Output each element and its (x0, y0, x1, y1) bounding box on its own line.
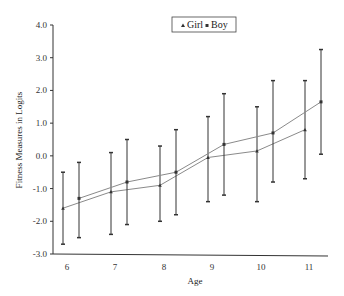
square-marker-icon (126, 181, 129, 184)
y-tick-label: 3.0 (36, 53, 48, 63)
fitness-chart: 4.03.02.01.00.0-1.0-2.0-3.0 67891011 Fit… (0, 0, 344, 296)
y-tick-label: -2.0 (33, 216, 48, 226)
y-axis-title: Fitness Measures in Logits (14, 91, 24, 188)
x-axis-title: Age (188, 276, 203, 286)
square-marker-icon (175, 171, 178, 174)
x-axis-line (53, 254, 328, 256)
legend-boy-label: Boy (211, 19, 228, 30)
y-tick-label: -3.0 (33, 249, 48, 259)
series-line-boy (79, 102, 321, 199)
square-marker-icon (272, 131, 275, 134)
x-axis: 67891011 (53, 254, 328, 272)
legend-boy-square-icon (206, 24, 209, 27)
y-tick-label: -1.0 (33, 184, 48, 194)
triangle-marker-icon (303, 128, 307, 131)
x-tick-label: 11 (305, 262, 314, 272)
x-tick-label: 6 (65, 262, 70, 272)
y-tick-label: 4.0 (36, 20, 48, 30)
x-tick-label: 10 (257, 262, 267, 272)
x-tick-label: 8 (162, 262, 167, 272)
x-tick-label: 7 (113, 262, 118, 272)
x-tick-label: 9 (210, 262, 215, 272)
series-layer (61, 50, 323, 245)
square-marker-icon (223, 143, 226, 146)
series-line-girl (63, 130, 305, 209)
legend-girl-label: Girl (187, 19, 203, 30)
legend: Girl Boy (172, 17, 236, 32)
square-marker-icon (320, 100, 323, 103)
y-tick-label: 1.0 (36, 118, 48, 128)
y-tick-label: 0.0 (36, 151, 48, 161)
square-marker-icon (78, 197, 81, 200)
y-tick-label: 2.0 (36, 85, 48, 95)
y-axis: 4.03.02.01.00.0-1.0-2.0-3.0 (33, 20, 53, 259)
